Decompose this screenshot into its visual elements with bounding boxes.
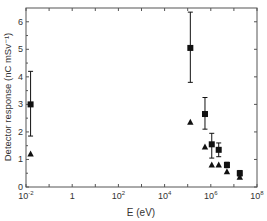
square-marker (224, 162, 230, 168)
y-tick-label: 4 (18, 72, 23, 82)
x-tick-label: 104 (158, 190, 172, 201)
square-marker (187, 45, 193, 51)
y-tick-label: 5 (18, 44, 23, 54)
x-tick-label: 106 (204, 190, 218, 201)
y-axis-ticks: 0123456 (18, 17, 257, 192)
x-axis-label: E (eV) (127, 207, 155, 218)
triangle-marker (202, 144, 208, 150)
y-tick-label: 1 (18, 154, 23, 164)
y-tick-label: 3 (18, 99, 23, 109)
triangle-marker (27, 150, 33, 156)
y-tick-label: 0 (18, 182, 23, 192)
triangle-marker (224, 168, 230, 174)
chart: 10-21102104106108 0123456 E (eV) Detecto… (0, 0, 267, 221)
y-axis-label: Detector response (nC mSv⁻¹) (2, 33, 13, 162)
square-marker (202, 111, 208, 117)
triangle-marker (216, 161, 222, 167)
square-marker (28, 101, 34, 107)
y-tick-label: 2 (18, 127, 23, 137)
x-tick-label: 108 (250, 190, 264, 201)
x-tick-label: 102 (112, 190, 126, 201)
plot-border (26, 8, 257, 187)
y-tick-label: 6 (18, 17, 23, 27)
plot-frame (26, 8, 257, 187)
x-tick-label: 1 (70, 191, 75, 201)
triangle-marker (209, 161, 215, 167)
triangle-marker (187, 119, 193, 125)
data-points (27, 12, 243, 180)
square-marker (209, 141, 215, 147)
square-marker (216, 147, 222, 153)
